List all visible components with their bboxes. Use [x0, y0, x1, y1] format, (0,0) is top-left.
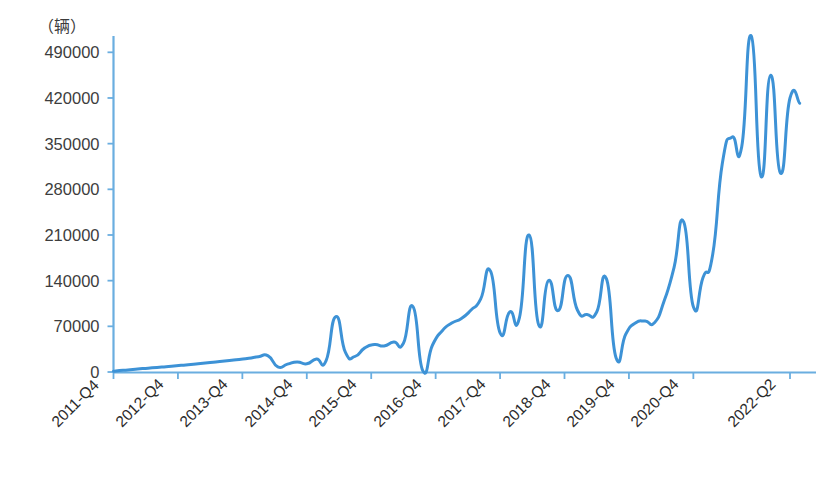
y-tick-label: 490000: [0, 43, 100, 62]
series-group: [114, 35, 800, 373]
y-tick-label: 420000: [0, 88, 100, 107]
y-tick-label: 210000: [0, 225, 100, 244]
y-tick-label: 280000: [0, 180, 100, 199]
data-line-series-0: [114, 35, 800, 373]
y-tick-label: 350000: [0, 134, 100, 153]
y-tick-label: 140000: [0, 271, 100, 290]
chart-container: （辆） 070000140000210000280000350000420000…: [0, 0, 823, 493]
y-tick-label: 70000: [0, 317, 100, 336]
axes-group: [108, 36, 817, 379]
y-tick-label: 0: [0, 363, 100, 382]
